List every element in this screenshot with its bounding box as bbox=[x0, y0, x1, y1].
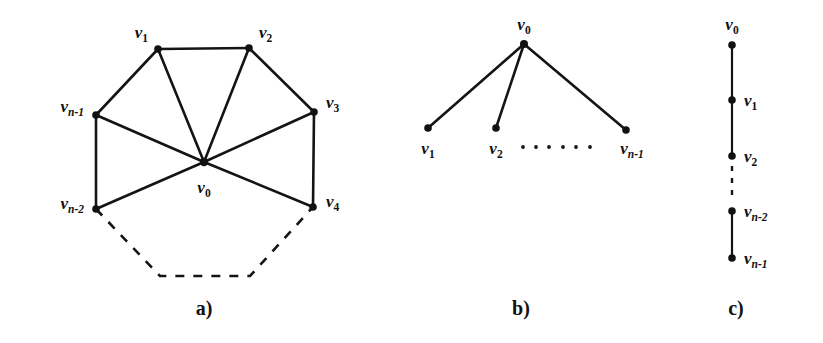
vertex-c-v1 bbox=[728, 96, 736, 104]
vertex-c-v0 bbox=[728, 41, 736, 49]
label-c-v0: v0 bbox=[725, 15, 739, 36]
caption-panel-c: c) bbox=[728, 297, 744, 320]
label-c-vn-2: vn-2 bbox=[744, 202, 768, 223]
vertex-c-v2 bbox=[728, 152, 736, 160]
label-c-v2: v2 bbox=[744, 147, 758, 168]
panel-c-path-graph: v0 v1 v2 vn-2 vn-1 c) bbox=[0, 0, 823, 343]
vertex-c-vn-2 bbox=[728, 207, 736, 215]
label-c-v1: v1 bbox=[744, 91, 758, 112]
vertex-c-vn-1 bbox=[728, 254, 736, 262]
figure-root: v1 v2 v3 v4 vn-2 vn-1 v0 a) v0 v1 v2 vn-… bbox=[0, 0, 823, 343]
label-c-vn-1: vn-1 bbox=[744, 249, 768, 270]
